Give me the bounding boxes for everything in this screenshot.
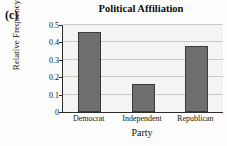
plot-area [62, 25, 223, 113]
x-axis-tick-label: Republican [177, 114, 213, 123]
x-axis-tick-label: Independent [122, 114, 162, 123]
y-axis-tick-label: 0.1 [49, 90, 59, 99]
y-axis-tick-label: 0.5 [49, 21, 59, 30]
y-axis-tick-label: 0.3 [49, 55, 59, 64]
y-axis-title: Relative Frequency [11, 0, 21, 79]
chart-title: Political Affiliation [56, 3, 226, 14]
bar [132, 84, 155, 112]
y-axis-tick-label: 0.2 [49, 73, 59, 82]
gridline [63, 24, 223, 25]
figure-panel: (c) Political Affiliation Relative Frequ… [0, 0, 227, 146]
x-axis-tick-labels: DemocratIndependentRepublican [62, 114, 222, 126]
x-axis-tick-label: Democrat [73, 114, 105, 123]
y-axis-tick-label: 0.4 [49, 38, 59, 47]
x-axis-title: Party [62, 127, 222, 138]
bar [78, 32, 101, 112]
y-axis-tick-labels: 00.10.20.30.40.5 [38, 25, 59, 112]
bar [185, 46, 208, 112]
